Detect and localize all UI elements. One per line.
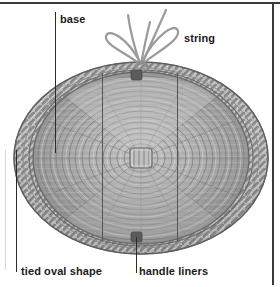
label-handle-liners: handle liners: [139, 265, 208, 277]
basket-interior: [33, 70, 249, 246]
handle-liner-guide-left: [102, 73, 103, 241]
basket-illustration: [0, 0, 280, 287]
figure-canvas: base string tied oval shape handle liner…: [0, 0, 280, 287]
label-base: base: [60, 13, 85, 25]
leader-line-base: [55, 12, 56, 153]
string-bow: [106, 10, 178, 66]
handle-liner-guide-right: [177, 73, 178, 241]
label-string: string: [184, 32, 215, 44]
label-tied-oval-shape: tied oval shape: [21, 265, 102, 277]
leader-line-tied-oval-shape: [16, 150, 17, 272]
leader-line-handle-liners: [136, 237, 137, 273]
basket-center-core: [130, 148, 152, 168]
